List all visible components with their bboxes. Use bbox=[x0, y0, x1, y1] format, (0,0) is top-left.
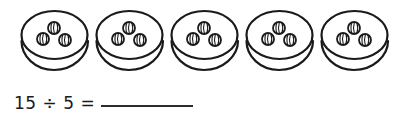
striped-marble-icon bbox=[273, 22, 285, 34]
striped-marble-icon bbox=[209, 34, 221, 46]
striped-marble-icon bbox=[262, 33, 274, 45]
striped-marble-icon bbox=[198, 22, 210, 34]
equation-expression: 15 ÷ 5 = bbox=[14, 93, 95, 113]
striped-marble-icon bbox=[187, 33, 199, 45]
oval-plate-icon bbox=[318, 6, 392, 74]
oval-plate-icon bbox=[18, 6, 92, 74]
plate-group-5 bbox=[318, 6, 392, 74]
striped-marble-icon bbox=[48, 22, 60, 34]
oval-plate-icon bbox=[243, 6, 317, 74]
striped-marble-icon bbox=[348, 22, 360, 34]
striped-marble-icon bbox=[134, 34, 146, 46]
plate-group-4 bbox=[243, 6, 317, 74]
oval-plate-icon bbox=[93, 6, 167, 74]
plate-group-3 bbox=[168, 6, 242, 74]
plate-group-1 bbox=[18, 6, 92, 74]
worksheet-page: 15 ÷ 5 = bbox=[0, 0, 401, 132]
striped-marble-icon bbox=[112, 33, 124, 45]
striped-marble-icon bbox=[59, 34, 71, 46]
division-equation: 15 ÷ 5 = bbox=[14, 93, 394, 123]
plate-group-2 bbox=[93, 6, 167, 74]
striped-marble-icon bbox=[123, 22, 135, 34]
striped-marble-icon bbox=[359, 34, 371, 46]
oval-plate-icon bbox=[168, 6, 242, 74]
striped-marble-icon bbox=[337, 33, 349, 45]
striped-marble-icon bbox=[37, 33, 49, 45]
plate-group-row bbox=[0, 6, 401, 76]
answer-blank-input[interactable] bbox=[101, 105, 193, 107]
striped-marble-icon bbox=[284, 34, 296, 46]
